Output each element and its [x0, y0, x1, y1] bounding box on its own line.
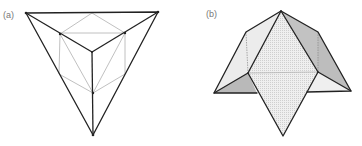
figure-a: [25, 11, 160, 137]
figure-container: [0, 0, 362, 146]
vertex: [91, 51, 93, 53]
vertex: [92, 92, 94, 94]
figure-svg: [0, 0, 362, 146]
vertex: [157, 11, 160, 14]
figure-a-visible-edges: [26, 12, 158, 135]
vertex: [25, 12, 28, 15]
vertex: [92, 134, 95, 137]
edge-to-center: [26, 13, 92, 52]
figure-b: [214, 11, 351, 136]
figure-a-label: (a): [3, 11, 14, 20]
figure-b-label: (b): [206, 10, 217, 19]
face-central-bottom: [248, 72, 318, 136]
vertex: [124, 32, 126, 34]
vertex: [59, 33, 61, 35]
